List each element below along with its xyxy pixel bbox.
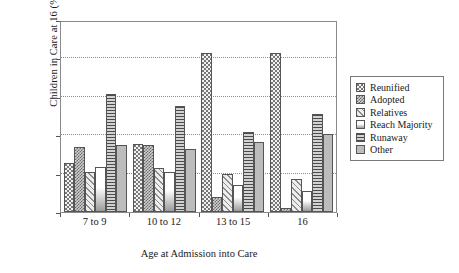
legend-swatch-icon-relatives [356, 108, 365, 117]
bar-group-2 [133, 22, 196, 212]
bar-other-7-to-9 [116, 145, 127, 212]
bar-adopted-7-to-9 [74, 147, 85, 212]
bar-reach-majority-7-to-9 [95, 167, 106, 212]
x-tick-label-4: 16 [268, 216, 337, 227]
legend-item-other: Other [356, 144, 439, 156]
legend-item-relatives: Relatives [356, 106, 439, 118]
bar-runaway-16 [312, 114, 323, 212]
y-tick-mark-30 [56, 98, 60, 99]
bar-reunified-7-to-9 [64, 163, 75, 212]
x-tick-mark-4 [337, 213, 338, 217]
bar-reunified-13-to-15 [201, 53, 212, 212]
bar-relatives-7-to-9 [85, 172, 96, 212]
legend-swatch-icon-reach-majority [356, 120, 365, 129]
legend-swatch-icon-other [356, 145, 365, 154]
bar-reunified-10-to-12 [133, 144, 144, 212]
legend-label: Other [370, 144, 393, 155]
y-tick-mark-40 [56, 59, 60, 60]
bar-runaway-10-to-12 [175, 106, 186, 212]
x-tick-label-1: 7 to 9 [60, 216, 129, 227]
bar-relatives-10-to-12 [154, 168, 165, 212]
bar-relatives-16 [291, 179, 302, 212]
bar-runaway-13-to-15 [243, 132, 254, 212]
y-tick-mark-20 [56, 136, 60, 137]
bar-other-16 [323, 134, 334, 212]
legend-item-adopted: Adopted [356, 94, 439, 106]
bar-other-13-to-15 [254, 142, 265, 212]
legend-item-runaway: Runaway [356, 131, 439, 143]
y-tick-mark-50 [56, 21, 60, 22]
y-tick-mark-10 [56, 175, 60, 176]
legend-item-reach-majority: Reach Majority [356, 119, 439, 131]
plot-area [60, 21, 337, 213]
legend-swatch-icon-reunified [356, 83, 365, 92]
bar-reach-majority-13-to-15 [233, 185, 244, 212]
legend-label: Reach Majority [370, 119, 432, 130]
bar-groups [61, 22, 336, 212]
x-axis-title: Age at Admission into Care [60, 248, 338, 259]
x-axis-tick-labels: 7 to 910 to 1213 to 1516 [60, 216, 337, 227]
bar-group-4 [270, 22, 333, 212]
legend-swatch-icon-adopted [356, 95, 365, 104]
legend: ReunifiedAdoptedRelativesReach MajorityR… [350, 76, 444, 161]
bar-group-3 [201, 22, 264, 212]
x-tick-label-3: 13 to 15 [199, 216, 268, 227]
legend-item-reunified: Reunified [356, 81, 439, 93]
bar-group-1 [64, 22, 127, 212]
bar-chart: Children in Care at 16 (%) 01020304050 7… [0, 0, 459, 273]
bar-adopted-16 [281, 208, 292, 212]
legend-swatch-icon-runaway [356, 133, 365, 142]
bar-adopted-10-to-12 [143, 145, 154, 212]
legend-label: Reunified [370, 82, 409, 93]
bar-other-10-to-12 [185, 149, 196, 212]
bar-reach-majority-10-to-12 [164, 172, 175, 212]
bar-relatives-13-to-15 [222, 174, 233, 212]
bar-adopted-13-to-15 [212, 197, 223, 212]
bar-reunified-16 [270, 53, 281, 212]
bar-reach-majority-16 [302, 191, 313, 213]
bar-runaway-7-to-9 [106, 94, 117, 212]
legend-label: Adopted [370, 94, 404, 105]
x-tick-label-2: 10 to 12 [129, 216, 198, 227]
legend-label: Relatives [370, 107, 407, 118]
legend-label: Runaway [370, 132, 408, 143]
